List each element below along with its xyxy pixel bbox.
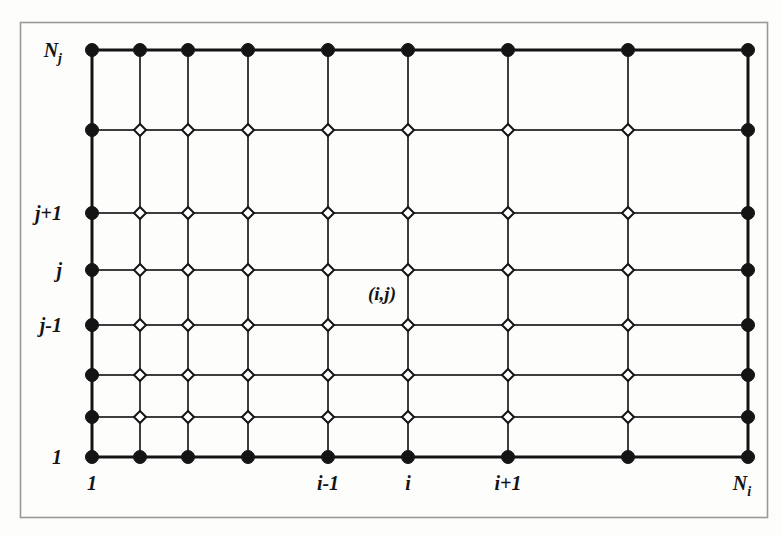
boundary-node	[182, 451, 195, 464]
boundary-node	[86, 44, 99, 57]
x-axis-label: 1	[87, 472, 97, 494]
boundary-node	[86, 264, 99, 277]
boundary-node	[742, 451, 755, 464]
boundary-node	[502, 44, 515, 57]
boundary-node	[86, 411, 99, 424]
boundary-node	[742, 44, 755, 57]
boundary-node	[134, 44, 147, 57]
boundary-node	[86, 124, 99, 137]
y-axis-label: j-1	[37, 314, 62, 337]
boundary-node	[742, 369, 755, 382]
boundary-node	[742, 264, 755, 277]
boundary-node	[86, 369, 99, 382]
boundary-node	[134, 451, 147, 464]
boundary-node	[742, 124, 755, 137]
boundary-node	[742, 207, 755, 220]
boundary-node	[402, 44, 415, 57]
boundary-node	[242, 451, 255, 464]
boundary-node	[742, 411, 755, 424]
boundary-node	[242, 44, 255, 57]
y-axis-label: 1	[52, 446, 62, 468]
boundary-node	[86, 451, 99, 464]
boundary-node	[502, 451, 515, 464]
grid-diagram: Njj+1jj-111i-1ii+1Ni (i,j)	[0, 0, 782, 537]
y-axis-label: j+1	[32, 202, 62, 225]
boundary-node	[322, 44, 335, 57]
boundary-node	[86, 319, 99, 332]
node-ij-label: (i,j)	[368, 283, 396, 305]
boundary-node	[742, 319, 755, 332]
boundary-node	[322, 451, 335, 464]
boundary-node	[622, 451, 635, 464]
boundary-node	[86, 207, 99, 220]
x-axis-label: i+1	[495, 472, 522, 494]
boundary-node	[402, 451, 415, 464]
figure-root: Njj+1jj-111i-1ii+1Ni (i,j)	[0, 0, 782, 537]
x-axis-label: i	[405, 472, 411, 494]
x-axis-label: i-1	[317, 472, 339, 494]
boundary-node	[622, 44, 635, 57]
boundary-node	[182, 44, 195, 57]
